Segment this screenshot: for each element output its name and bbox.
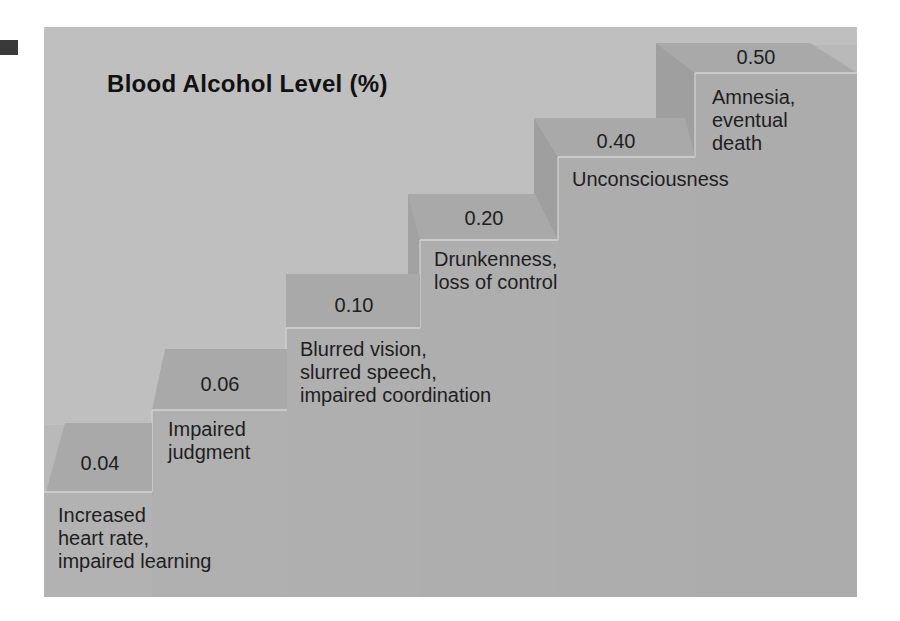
step-level-6: 0.50	[716, 46, 796, 69]
step-effect-4: Drunkenness, loss of control	[434, 248, 557, 294]
step-effect-6: Amnesia, eventual death	[712, 86, 795, 155]
step-effect-2: Impaired judgment	[168, 418, 250, 464]
step-level-1: 0.04	[60, 452, 140, 475]
corner-marker	[0, 40, 18, 55]
step-level-2: 0.06	[180, 373, 260, 396]
step-level-5: 0.40	[576, 130, 656, 153]
step-level-3: 0.10	[314, 294, 394, 317]
step-level-4: 0.20	[444, 207, 524, 230]
step-effect-5: Unconsciousness	[572, 168, 729, 191]
step-effect-3: Blurred vision, slurred speech, impaired…	[300, 338, 491, 407]
chart-title: Blood Alcohol Level (%)	[107, 70, 388, 98]
step-effect-1: Increased heart rate, impaired learning	[58, 504, 211, 573]
